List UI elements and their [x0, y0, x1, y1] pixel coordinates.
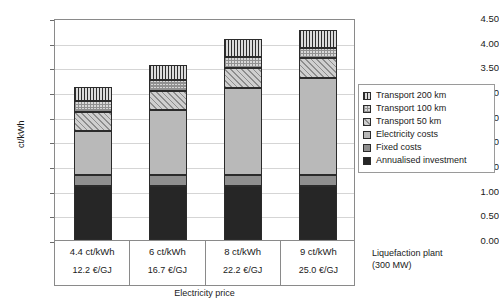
- bar-segment: [299, 48, 337, 59]
- legend-swatch-icon: [363, 131, 371, 139]
- legend-item-label: Transport 100 km: [376, 104, 446, 113]
- y-axis-tick-mark: [50, 193, 54, 194]
- bar-segment: [299, 30, 337, 47]
- plant-caption-line2: (300 MW): [372, 259, 492, 271]
- y-axis-tick-label: 0.50: [453, 211, 499, 221]
- bar-segment: [149, 110, 187, 175]
- legend-swatch-icon: [363, 105, 371, 113]
- y-axis-tick-label: 4.50: [453, 14, 499, 24]
- y-axis-tick-label: 4.00: [453, 39, 499, 49]
- y-axis-tick-mark: [50, 168, 54, 169]
- y-axis-tick-label: 0.00: [453, 236, 499, 246]
- bar-segment: [74, 131, 112, 175]
- x-axis-category-label: 4.4 ct/kWh: [70, 247, 115, 257]
- plant-caption-line1: Liquefaction plant: [372, 247, 492, 259]
- x-axis-category: 4.4 ct/kWh12.2 €/GJ: [55, 241, 130, 285]
- x-axis-category: 9 ct/kWh25.0 €/GJ: [281, 241, 356, 285]
- bar-segment: [74, 112, 112, 131]
- legend-item-label: Transport 50 km: [376, 117, 441, 126]
- bar-segment: [224, 57, 262, 68]
- y-axis-tick-label: 1.00: [453, 187, 499, 197]
- legend-item[interactable]: Transport 200 km: [363, 89, 489, 102]
- bar-segment: [299, 58, 337, 78]
- x-axis-category-sublabel: 25.0 €/GJ: [299, 265, 338, 275]
- bar: [299, 30, 337, 240]
- legend-swatch-icon: [363, 144, 371, 152]
- x-axis-category-sublabel: 12.2 €/GJ: [73, 265, 112, 275]
- y-axis-title: ct/kWh: [2, 68, 12, 96]
- bar-segment: [149, 91, 187, 111]
- bar-segment: [299, 175, 337, 186]
- bar-segment: [224, 88, 262, 175]
- legend-item[interactable]: Electricity costs: [363, 128, 489, 141]
- x-axis-category-sublabel: 22.2 €/GJ: [223, 265, 262, 275]
- bar-segment: [224, 186, 262, 240]
- x-axis-category-sublabel: 16.7 €/GJ: [148, 265, 187, 275]
- bar-segment: [149, 80, 187, 91]
- bar: [149, 65, 187, 240]
- bar-segment: [224, 39, 262, 57]
- y-axis-tick-mark: [50, 94, 54, 95]
- plot-area: [54, 19, 355, 241]
- bar-segment: [74, 101, 112, 112]
- x-axis-category: 8 ct/kWh22.2 €/GJ: [206, 241, 281, 285]
- y-axis-tick-mark: [50, 20, 54, 21]
- y-axis-title-text: ct/kWh: [16, 120, 26, 148]
- y-axis-tick-mark: [50, 217, 54, 218]
- legend-item-label: Transport 200 km: [376, 91, 446, 100]
- bar-segment: [224, 68, 262, 88]
- plant-caption: Liquefaction plant (300 MW): [372, 247, 492, 271]
- chart-figure: ct/kWh 0.000.501.001.502.002.503.003.504…: [0, 0, 499, 308]
- legend-item[interactable]: Fixed costs: [363, 141, 489, 154]
- chart-legend: Transport 200 kmTransport 100 kmTranspor…: [358, 84, 495, 173]
- legend-swatch-icon: [363, 118, 371, 126]
- bar-segment: [224, 175, 262, 186]
- y-axis-tick-mark: [50, 119, 54, 120]
- bar-segment: [149, 186, 187, 240]
- bar: [224, 39, 262, 240]
- x-axis-category-band: 4.4 ct/kWh12.2 €/GJ6 ct/kWh16.7 €/GJ8 ct…: [54, 241, 355, 286]
- y-axis-tick-mark: [50, 143, 54, 144]
- x-axis-category-label: 8 ct/kWh: [224, 247, 261, 257]
- legend-item-label: Annualised investment: [376, 156, 467, 165]
- bar-segment: [299, 186, 337, 240]
- legend-swatch-icon: [363, 92, 371, 100]
- x-axis-category: 6 ct/kWh16.7 €/GJ: [130, 241, 205, 285]
- y-axis-tick-label: 3.50: [453, 63, 499, 73]
- bar-segment: [74, 175, 112, 186]
- bar-segment: [149, 175, 187, 186]
- legend-swatch-icon: [363, 157, 371, 165]
- legend-item[interactable]: Annualised investment: [363, 154, 489, 167]
- y-axis-tick-mark: [50, 69, 54, 70]
- legend-item[interactable]: Transport 100 km: [363, 102, 489, 115]
- legend-item[interactable]: Transport 50 km: [363, 115, 489, 128]
- x-axis-category-label: 9 ct/kWh: [300, 247, 337, 257]
- bar-segment: [299, 78, 337, 175]
- y-axis-tick-mark: [50, 45, 54, 46]
- bar-segment: [149, 65, 187, 79]
- bar: [74, 87, 112, 240]
- x-axis-title: Electricity price: [54, 288, 355, 298]
- legend-item-label: Fixed costs: [376, 143, 422, 152]
- legend-item-label: Electricity costs: [376, 130, 438, 139]
- bar-segment: [74, 186, 112, 240]
- x-axis-category-label: 6 ct/kWh: [149, 247, 186, 257]
- bar-segment: [74, 87, 112, 101]
